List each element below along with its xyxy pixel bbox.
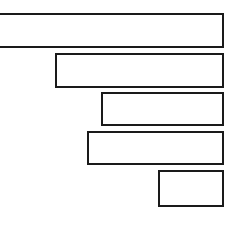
bar-5	[158, 170, 224, 207]
plot-area	[0, 0, 236, 225]
bar-2	[55, 53, 224, 88]
bar-1	[0, 13, 224, 48]
bar-chart	[0, 0, 236, 225]
bar-3	[101, 92, 224, 126]
bar-4	[87, 131, 224, 165]
